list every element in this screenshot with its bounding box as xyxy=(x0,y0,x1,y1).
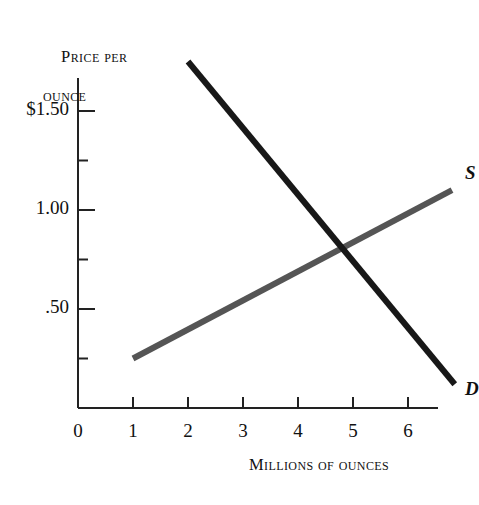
y-axis-ticks xyxy=(78,111,95,359)
origin-label: 0 xyxy=(66,420,90,442)
y-tick-label: 1.00 xyxy=(5,197,69,219)
y-tick-label: .50 xyxy=(5,296,69,318)
x-axis-ticks xyxy=(133,397,408,408)
x-axis-title: Millions of ounces xyxy=(249,455,389,474)
y-axis-title: Price per ounce xyxy=(43,28,127,145)
x-tick-label: 5 xyxy=(341,420,365,442)
axes xyxy=(78,78,438,408)
x-tick-label: 3 xyxy=(231,420,255,442)
x-tick-label: 1 xyxy=(121,420,145,442)
curve-label-s: S xyxy=(465,162,476,184)
y-axis-title-line1: Price per xyxy=(61,47,127,66)
x-tick-label: 4 xyxy=(286,420,310,442)
y-tick-label: $1.50 xyxy=(5,98,69,120)
curve-s xyxy=(133,190,452,358)
x-tick-label: 2 xyxy=(176,420,200,442)
data-series xyxy=(133,62,455,385)
curve-d xyxy=(188,62,455,385)
curve-label-d: D xyxy=(465,378,479,400)
x-tick-label: 6 xyxy=(396,420,420,442)
